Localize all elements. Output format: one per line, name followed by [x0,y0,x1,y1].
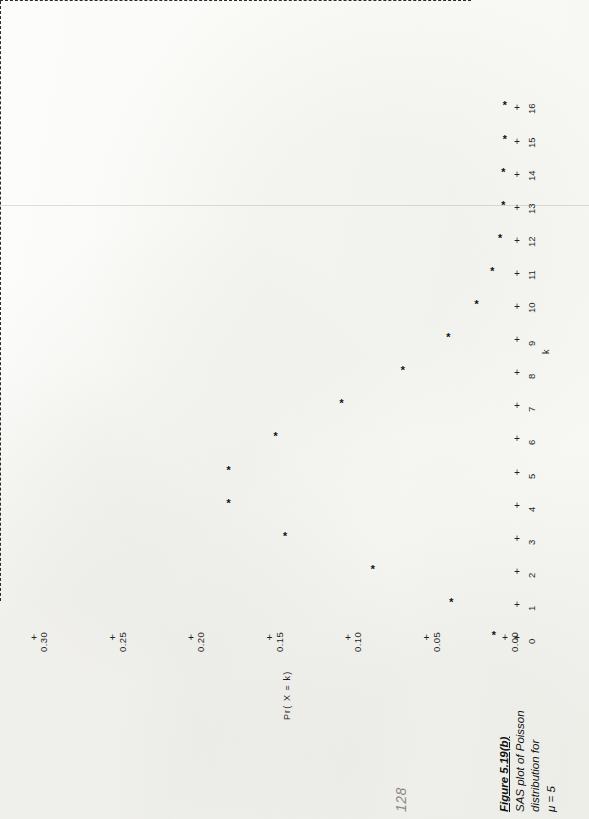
data-point: * [500,201,507,212]
k-tick-label: 8 [526,374,537,379]
data-point: * [448,598,455,609]
caption-line-3: μ = 5 [544,512,560,812]
k-tick-mark: + [514,435,520,445]
data-point: * [497,234,504,245]
k-axis-line [0,1,1,601]
data-point: * [272,432,279,443]
probability-tick-label: 0.25 [117,632,128,652]
probability-tick-mark: + [188,634,194,644]
figure-caption: Figure 5.19(b) SAS plot of Poisson distr… [497,512,559,812]
k-tick-mark: + [514,270,520,280]
k-tick-label: 13 [526,203,537,214]
probability-tick-mark: + [110,634,116,644]
probability-tick-mark: + [424,634,430,644]
data-point: * [225,499,232,510]
k-tick-mark: + [514,469,520,479]
k-tick-mark: + [514,336,520,346]
k-tick-mark: + [514,502,520,512]
k-tick-label: 14 [526,170,537,181]
k-tick-mark: + [514,402,520,412]
data-point: * [399,366,406,377]
probability-tick-label: 0.20 [195,632,206,652]
k-tick-label: 6 [526,440,537,445]
data-point: * [489,267,496,278]
probability-axis-title: Pr( X = k) [282,671,292,720]
data-point: * [502,135,509,146]
probability-tick-mark: + [31,634,37,644]
k-tick-label: 7 [526,407,537,412]
k-tick-mark: + [514,204,520,214]
probability-axis-line [0,0,471,1]
k-tick-label: 4 [526,506,537,511]
k-axis-title: k [541,349,551,355]
probability-tick-label: 0.10 [352,632,363,652]
data-point: * [473,300,480,311]
k-tick-mark: + [514,237,520,247]
k-tick-label: 12 [526,236,537,247]
data-point: * [502,101,509,112]
k-tick-label: 16 [526,104,537,115]
k-tick-mark: + [514,104,520,114]
k-tick-label: 15 [526,137,537,148]
k-tick-mark: + [514,369,520,379]
k-tick-label: 5 [526,473,537,478]
probability-tick-mark: + [267,634,273,644]
caption-line-1: SAS plot of Poisson [513,512,529,812]
page-number: 128 [393,787,409,812]
probability-tick-label: 0.15 [274,632,285,652]
figure-number: Figure 5.19(b) [497,512,513,812]
data-point: * [338,399,345,410]
data-point: * [500,168,507,179]
k-tick-mark: + [514,171,520,181]
data-point: * [370,565,377,576]
k-tick-label: 10 [526,302,537,313]
caption-line-2: distribution for [528,512,544,812]
k-tick-label: 11 [526,270,537,280]
data-point: * [445,333,452,344]
k-tick-mark: + [514,138,520,148]
probability-tick-label: 0.30 [38,632,49,652]
probability-tick-mark: + [345,634,351,644]
data-point: * [282,532,289,543]
data-point: * [225,466,232,477]
probability-tick-label: 0.05 [431,632,442,652]
k-tick-label: 9 [526,341,537,346]
k-tick-mark: + [514,303,520,313]
